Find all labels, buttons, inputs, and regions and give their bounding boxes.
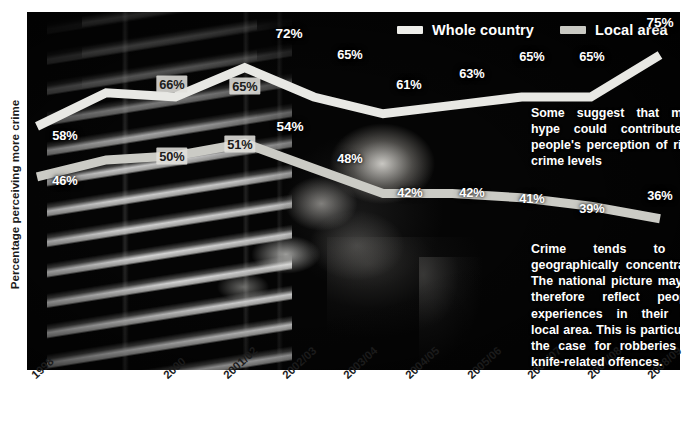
plot-area: Whole country Local area 58% 66% 65% 72%… xyxy=(27,12,680,370)
data-label-whole-country-2005-06: 63% xyxy=(459,66,484,81)
data-label-whole-country-2008-09: 75% xyxy=(647,15,674,30)
data-label-local-area-2005-06: 42% xyxy=(459,185,484,200)
legend-item-whole-country[interactable]: Whole country xyxy=(397,22,534,38)
data-label-local-area-2007-08: 39% xyxy=(579,201,604,216)
data-label-whole-country-2001-02: 65% xyxy=(229,78,260,95)
x-axis-tick-labels: 1998 2000 2001/02 2002/03 2003/04 2004/0… xyxy=(27,372,680,430)
data-label-local-area-2006-07: 41% xyxy=(519,191,544,206)
data-label-whole-country-1998: 58% xyxy=(52,128,77,143)
data-label-local-area-2001-02: 51% xyxy=(224,136,255,153)
data-label-whole-country-2000: 66% xyxy=(156,76,187,93)
data-label-local-area-2003-04: 48% xyxy=(337,151,362,166)
crime-perception-line-chart: Whole country Local area 58% 66% 65% 72%… xyxy=(0,0,689,430)
data-label-whole-country-2002-03: 72% xyxy=(276,26,303,41)
annotation-geographic-concentration: Crime tends to be geographically concent… xyxy=(531,241,680,370)
data-label-whole-country-2006-07: 65% xyxy=(519,49,544,64)
data-label-whole-country-2004-05: 61% xyxy=(396,77,421,92)
data-label-local-area-2002-03: 54% xyxy=(277,119,304,134)
data-label-local-area-2008-09: 36% xyxy=(647,188,672,203)
legend-label-whole-country: Whole country xyxy=(432,22,534,38)
legend-swatch-local-area xyxy=(560,26,586,34)
annotation-media-hype: Some suggest that media hype could contr… xyxy=(531,105,680,170)
chart-legend: Whole country Local area xyxy=(397,22,668,38)
data-label-local-area-2000: 50% xyxy=(156,148,187,165)
data-label-whole-country-2003-04: 65% xyxy=(337,47,362,62)
data-label-whole-country-2007-08: 65% xyxy=(579,49,604,64)
legend-swatch-whole-country xyxy=(397,26,423,34)
data-label-local-area-1998: 46% xyxy=(52,173,77,188)
y-axis-label: Percentage perceiving more crime xyxy=(8,70,21,320)
data-label-local-area-2004-05: 42% xyxy=(397,185,422,200)
